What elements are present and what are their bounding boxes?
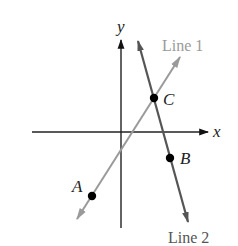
coordinate-diagram: y x Line 1 Line 2 A B C [0, 0, 238, 246]
line-1-label: Line 1 [162, 37, 203, 54]
point-c [150, 94, 158, 102]
point-b [166, 154, 174, 162]
x-axis-label: x [212, 122, 221, 141]
point-a-label: A [71, 177, 83, 196]
line-2-label: Line 2 [168, 229, 209, 246]
y-axis-label: y [115, 17, 125, 36]
point-a [88, 192, 96, 200]
point-b-label: B [180, 149, 191, 168]
point-c-label: C [163, 90, 175, 109]
